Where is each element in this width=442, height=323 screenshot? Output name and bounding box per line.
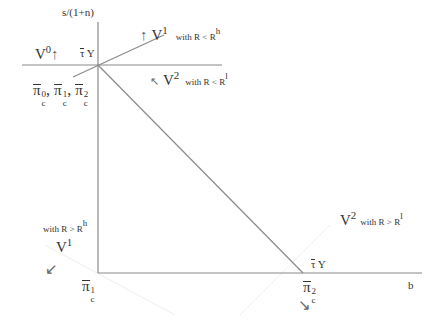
diagram-lines — [0, 0, 442, 323]
diagonal-line — [98, 65, 303, 273]
v0-label: V0↑ — [35, 45, 59, 62]
faint-line-left — [45, 245, 175, 315]
diagram: s/(1+n) V0↑ τ Y ↑ V1 with R < Rh ↖ V2 wi… — [0, 0, 442, 323]
lower-tau-y-label: τ Y — [311, 259, 326, 270]
arrow-downleft-icon: ↙ — [45, 262, 58, 277]
v2-high-label: V2 with R > Rl — [340, 210, 403, 228]
x-axis-label: b — [408, 280, 414, 291]
arrow-up-icon: ↑ — [51, 46, 59, 62]
arrow-upleft-icon: ↖ — [150, 75, 159, 87]
v1-high-label: with R > Rh V1 — [43, 219, 87, 255]
v1-low-label: ↑ V1 with R < Rh — [140, 25, 220, 43]
arrow-downright-icon: ↘ — [298, 298, 311, 313]
pi-c1-label: π1c — [82, 278, 95, 304]
y-axis-label: s/(1+n) — [62, 7, 94, 18]
arrow-up-icon: ↑ — [140, 27, 148, 43]
v2-low-label: ↖ V2 with R < Rl — [150, 70, 228, 88]
intersection-label: π0c, π1c, π2c — [33, 82, 88, 108]
faint-line-right — [240, 225, 330, 315]
tau-y-label: τ Y — [80, 48, 95, 59]
